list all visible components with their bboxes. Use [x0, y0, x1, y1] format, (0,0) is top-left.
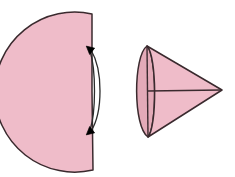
geometry-figure-container — [0, 0, 235, 177]
geometry-figure-svg — [0, 0, 235, 177]
cone-axis-line — [148, 90, 221, 91]
cone-base-chord-line — [147, 46, 148, 137]
